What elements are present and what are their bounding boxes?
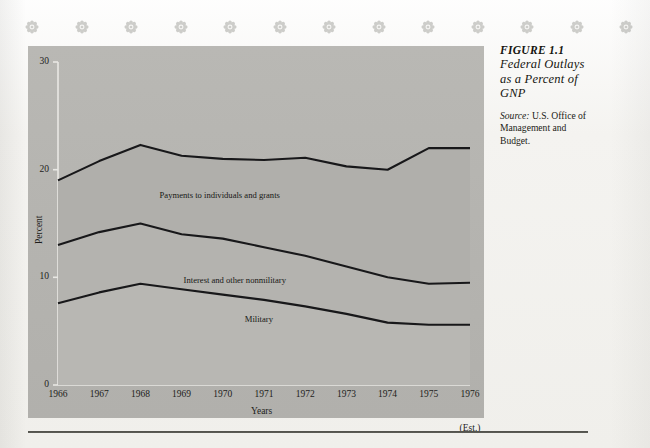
chart-plot (28, 46, 484, 418)
y-tick-label: 10 (27, 271, 49, 281)
figure-number: FIGURE 1.1 (500, 44, 640, 56)
x-tick-label: 1971 (247, 389, 281, 399)
y-tick-label: 20 (27, 164, 49, 174)
flower-rosette-icon (24, 19, 40, 35)
flower-rosette-icon (123, 19, 139, 35)
x-tick-label: 1972 (288, 389, 322, 399)
flower-rosette-icon (420, 19, 436, 35)
decorative-rosette-strip (24, 14, 634, 40)
x-tick-label: 1966 (41, 389, 75, 399)
flower-rosette-icon (272, 19, 288, 35)
series-label-military: Military (245, 314, 273, 324)
y-tick-label: 0 (27, 379, 49, 389)
x-tick-label: 1975 (412, 389, 446, 399)
flower-rosette-icon (321, 19, 337, 35)
flower-rosette-icon (173, 19, 189, 35)
flower-rosette-icon (569, 19, 585, 35)
flower-rosette-icon (470, 19, 486, 35)
figure-title: Federal Outlaysas a Percent ofGNP (500, 57, 640, 101)
flower-rosette-icon (222, 19, 238, 35)
x-tick-label: 1969 (165, 389, 199, 399)
chart-panel: 0102030 19661967196819691970197119721973… (28, 46, 484, 418)
x-axis-title: Years (251, 406, 272, 416)
source-label: Source: (500, 110, 529, 121)
x-tick-label: 1974 (371, 389, 405, 399)
x-tick-label: 1970 (206, 389, 240, 399)
figure-caption: FIGURE 1.1 Federal Outlaysas a Percent o… (500, 44, 640, 147)
x-tick-label: 1976 (453, 389, 487, 399)
flower-rosette-icon (618, 19, 634, 35)
series-label-payments: Payments to individuals and grants (160, 190, 280, 200)
flower-rosette-icon (519, 19, 535, 35)
x-tick-label: 1968 (123, 389, 157, 399)
figure-source: Source: U.S. Office ofManagement andBudg… (500, 110, 640, 148)
y-tick-label: 30 (27, 56, 49, 66)
x-tick-label: 1973 (329, 389, 363, 399)
flower-rosette-icon (371, 19, 387, 35)
flower-rosette-icon (74, 19, 90, 35)
x-tick-label: 1967 (82, 389, 116, 399)
bottom-rule (28, 431, 588, 433)
y-axis-title: Percent (34, 215, 44, 244)
series-label-interest: Interest and other nonmilitary (184, 275, 286, 285)
